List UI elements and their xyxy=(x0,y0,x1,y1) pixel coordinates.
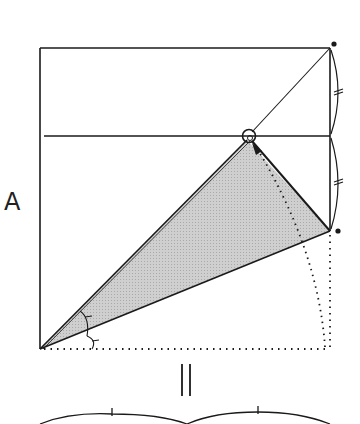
fold-diagram: A xyxy=(0,0,360,424)
folded-flap xyxy=(40,140,330,349)
diagonal-crease xyxy=(252,48,330,132)
diagram-canvas xyxy=(0,0,360,424)
next-step-brace xyxy=(40,406,330,424)
equals-symbol xyxy=(182,364,190,396)
corner-dot-bottom xyxy=(335,228,340,233)
step-label: A xyxy=(4,190,20,214)
corner-dot-top xyxy=(331,41,336,46)
equal-length-braces xyxy=(331,50,343,229)
